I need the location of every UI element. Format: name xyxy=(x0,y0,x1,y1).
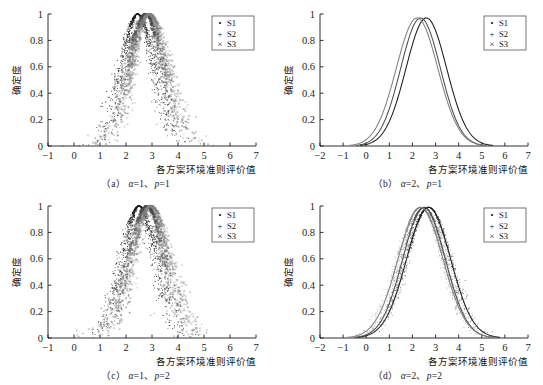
x-tick-label: 3 xyxy=(149,342,154,353)
y-tick-label: 0.6 xyxy=(302,253,315,264)
chart-panel-d: −2−10123456700.20.40.60.81确定度各方案环境准则评价值•… xyxy=(272,192,543,384)
caption-p-value: =1 xyxy=(159,179,170,189)
caption-index: （c） xyxy=(101,371,126,381)
x-tick-label: 4 xyxy=(456,150,462,161)
panel-d-plot: −2−10123456700.20.40.60.81确定度各方案环境准则评价值•… xyxy=(272,192,543,384)
dot-marker-icon: • xyxy=(219,210,222,220)
curve-series-S1 xyxy=(357,207,500,337)
x-tick-label: 1 xyxy=(387,150,392,161)
y-tick-label: 0.2 xyxy=(302,114,315,125)
x-tick-label: 0 xyxy=(364,342,369,353)
y-tick-label: 0.4 xyxy=(302,280,316,291)
plus-marker-icon: + xyxy=(490,29,495,39)
legend[interactable]: •S1+S2×S3 xyxy=(484,16,526,50)
caption-alpha-value: =1、 xyxy=(134,371,155,381)
y-tick-label: 0 xyxy=(38,333,43,344)
legend[interactable]: •S1+S2×S3 xyxy=(212,16,254,50)
plus-marker-icon: + xyxy=(218,221,223,231)
dot-marker-icon: • xyxy=(491,18,494,28)
y-tick-label: 0.6 xyxy=(302,61,315,72)
x-axis-label: 各方案环境准则评价值 xyxy=(428,356,528,367)
legend-label-S1: S1 xyxy=(499,18,508,28)
legend[interactable]: •S1+S2×S3 xyxy=(484,208,526,242)
caption-alpha-value: =2、 xyxy=(406,371,427,381)
chart-panel-b: −2−10123456700.20.40.60.81确定度各方案环境准则评价值•… xyxy=(272,0,543,192)
caption-index: （d） xyxy=(373,371,398,381)
curve-series-S1 xyxy=(360,18,493,145)
chart-panel-c: −10123456700.20.40.60.81确定度各方案环境准则评价值•S1… xyxy=(0,192,271,384)
x-tick-label: 3 xyxy=(433,150,438,161)
x-tick-label: 2 xyxy=(410,150,415,161)
x-tick-label: 0 xyxy=(71,342,76,353)
cross-marker-icon: × xyxy=(490,39,495,49)
panel-a-caption: （a） α=1、p=1 xyxy=(0,176,271,190)
y-tick-label: 0.8 xyxy=(30,35,43,46)
legend-label-S1: S1 xyxy=(499,210,508,220)
x-tick-label: −1 xyxy=(42,150,53,161)
x-tick-label: 0 xyxy=(71,150,76,161)
x-tick-label: 3 xyxy=(149,150,154,161)
y-tick-label: 0.2 xyxy=(302,306,315,317)
panel-b-plot: −2−10123456700.20.40.60.81确定度各方案环境准则评价值•… xyxy=(272,0,543,192)
y-tick-label: 0 xyxy=(310,333,315,344)
legend-label-S2: S2 xyxy=(499,29,508,39)
x-tick-label: 2 xyxy=(123,342,128,353)
y-tick-label: 0.4 xyxy=(30,280,44,291)
dot-marker-icon: • xyxy=(491,210,494,220)
x-tick-label: −1 xyxy=(338,150,349,161)
y-tick-label: 0.2 xyxy=(30,114,43,125)
cross-marker-icon: × xyxy=(218,39,223,49)
y-axis-label: 确定度 xyxy=(11,257,22,287)
legend-label-S3: S3 xyxy=(227,231,236,241)
y-tick-label: 0.6 xyxy=(30,253,43,264)
x-tick-label: −2 xyxy=(314,150,325,161)
legend-label-S3: S3 xyxy=(499,39,508,49)
chart-panel-a: −10123456700.20.40.60.81确定度各方案环境准则评价值•S1… xyxy=(0,0,271,192)
cross-marker-icon: × xyxy=(490,231,495,241)
caption-p-value: =2 xyxy=(432,371,443,381)
x-tick-label: −2 xyxy=(314,342,325,353)
plus-marker-icon: + xyxy=(490,221,495,231)
dot-marker-icon: • xyxy=(219,18,222,28)
caption-index: （a） xyxy=(101,179,126,189)
x-tick-label: 1 xyxy=(97,150,102,161)
legend[interactable]: •S1+S2×S3 xyxy=(212,208,254,242)
caption-p-value: =1 xyxy=(432,179,443,189)
scatter-series-S3 xyxy=(76,205,207,338)
caption-index: （b） xyxy=(373,179,398,189)
x-tick-label: 5 xyxy=(479,342,484,353)
x-tick-label: 4 xyxy=(456,342,462,353)
x-tick-label: 4 xyxy=(175,342,181,353)
panel-c-plot: −10123456700.20.40.60.81确定度各方案环境准则评价值•S1… xyxy=(0,192,271,384)
x-tick-label: 0 xyxy=(364,150,369,161)
x-tick-label: 2 xyxy=(410,342,415,353)
cloud-model-figure: −10123456700.20.40.60.81确定度各方案环境准则评价值•S1… xyxy=(0,0,543,385)
caption-alpha-value: =1、 xyxy=(134,179,155,189)
x-axis-label: 各方案环境准则评价值 xyxy=(428,164,528,175)
cross-marker-icon: × xyxy=(218,231,223,241)
legend-label-S1: S1 xyxy=(227,18,236,28)
plus-marker-icon: + xyxy=(218,29,223,39)
y-axis-label: 确定度 xyxy=(11,65,22,95)
x-tick-label: 2 xyxy=(123,150,128,161)
x-tick-label: 6 xyxy=(502,150,507,161)
legend-label-S2: S2 xyxy=(227,221,236,231)
x-tick-label: 6 xyxy=(227,150,232,161)
x-tick-label: 7 xyxy=(525,342,530,353)
x-tick-label: 4 xyxy=(175,150,181,161)
x-tick-label: 5 xyxy=(201,150,206,161)
y-axis-label: 确定度 xyxy=(283,65,294,95)
x-tick-label: 6 xyxy=(227,342,232,353)
x-tick-label: −1 xyxy=(338,342,349,353)
x-tick-label: 7 xyxy=(525,150,530,161)
y-tick-label: 0.2 xyxy=(30,306,43,317)
y-tick-label: 0.8 xyxy=(302,35,315,46)
y-tick-label: 0.4 xyxy=(30,88,44,99)
y-tick-label: 1 xyxy=(38,9,43,20)
y-tick-label: 0 xyxy=(38,141,43,152)
y-tick-label: 1 xyxy=(310,9,315,20)
legend-label-S3: S3 xyxy=(227,39,236,49)
y-axis-label: 确定度 xyxy=(283,257,294,287)
panel-a-plot: −10123456700.20.40.60.81确定度各方案环境准则评价值•S1… xyxy=(0,0,271,192)
y-tick-label: 1 xyxy=(310,201,315,212)
